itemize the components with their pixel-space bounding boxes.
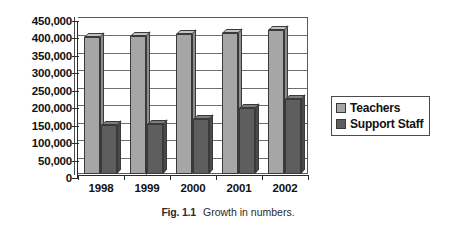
x-axis-tick [124,175,125,180]
bar-side [301,95,305,174]
y-axis-back-line [74,17,75,175]
x-axis-tick [262,175,263,180]
chart-legend: Teachers Support Staff [331,96,430,136]
bar-1999-teachers [130,36,146,175]
y-axis-tick-label: 200,000 [32,102,72,114]
bar-side [255,104,259,174]
x-axis-tick [216,175,217,180]
x-axis-tick-label: 2001 [226,182,251,194]
y-axis-tick [72,143,79,144]
bar-face [239,108,255,174]
y-axis-tick-label: 400,000 [32,32,72,44]
bar-2000-support [193,119,209,174]
bar-face [84,37,100,174]
x-axis-labels: 19981999200020012002 [74,182,314,198]
figure-caption-text: Growth in numbers. [203,206,295,218]
bar-1998-teachers [84,37,100,174]
bar-2000-teachers [176,34,192,174]
bar-face [222,33,238,174]
x-axis-tick [78,175,79,180]
y-axis-tick-label: 300,000 [32,67,72,79]
x-axis-tick-label: 1998 [88,182,113,194]
legend-swatch-teachers-icon [336,103,346,113]
legend-label-support-staff: Support Staff [350,117,423,131]
bar-2001-support [239,108,255,174]
bar-face [268,30,284,174]
x-axis-tick [170,175,171,180]
y-axis-tick [72,38,79,39]
y-axis-tick [72,161,79,162]
x-axis-tick-label: 2002 [272,182,297,194]
bar-face [285,99,301,174]
bar-group-2000 [170,17,216,174]
bar-face [147,124,163,174]
y-axis-tick-label: 100,000 [32,137,72,149]
x-axis-tick [308,175,309,180]
bar-group-1999 [124,17,170,174]
y-axis-labels: 450,000400,000350,000300,000250,000200,0… [0,6,72,174]
bar-2002-teachers [268,30,284,174]
y-axis-tick [72,91,79,92]
bar-1999-support [147,124,163,174]
y-axis-tick-label: 50,000 [38,155,72,167]
y-axis-tick [72,56,79,57]
figure-caption: Fig. 1.1Growth in numbers. [0,206,456,218]
bar-group-1998 [78,17,124,174]
bar-2001-teachers [222,33,238,174]
bar-face [101,125,117,174]
bar-side [163,119,167,174]
y-axis-tick [72,126,79,127]
legend-item-support-staff: Support Staff [336,116,423,132]
bars-layer [78,17,308,174]
x-axis-tick-label: 1999 [134,182,159,194]
bar-side [209,114,213,174]
bar-group-2002 [262,17,308,174]
bar-side [117,120,121,174]
legend-label-teachers: Teachers [350,101,400,115]
y-axis-tick [72,21,79,22]
bar-2002-support [285,99,301,174]
bar-1998-support [101,125,117,174]
bar-face [176,34,192,174]
y-axis-tick [72,73,79,74]
x-axis-tick-label: 2000 [180,182,205,194]
figure: 450,000400,000350,000300,000250,000200,0… [0,0,456,232]
y-axis-tick-label: 150,000 [32,120,72,132]
legend-item-teachers: Teachers [336,100,423,116]
figure-number: Fig. 1.1 [161,206,196,218]
legend-swatch-support-staff-icon [336,119,346,129]
bar-face [193,119,209,174]
y-axis-tick [72,108,79,109]
x-axis-line [78,175,308,176]
y-axis-tick-label: 350,000 [32,50,72,62]
y-axis-tick-label: 250,000 [32,85,72,97]
bar-face [130,36,146,175]
bar-group-2001 [216,17,262,174]
bar-chart: 450,000400,000350,000300,000250,000200,0… [0,6,456,202]
y-axis-tick-label: 450,000 [32,15,72,27]
